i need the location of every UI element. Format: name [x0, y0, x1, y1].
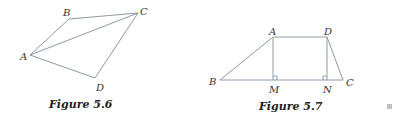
label-a: A [19, 51, 27, 62]
figure-5-6: A B C D Figure 5.6 [19, 6, 148, 111]
label-d: D [95, 82, 104, 93]
label-d: D [323, 26, 332, 37]
label-c: C [140, 6, 148, 17]
label-a: A [268, 26, 276, 37]
figure-caption: Figure 5.6 [48, 98, 113, 111]
geometry-figures: A B C D Figure 5.6 A D B M N C Figure 5.… [0, 0, 410, 122]
segment-ab [30, 19, 69, 55]
right-angle-m-icon [273, 76, 277, 80]
segment-ad [30, 55, 95, 78]
end-marker-icon [387, 104, 392, 109]
right-angle-n-icon [323, 76, 327, 80]
segment-cd [95, 13, 138, 78]
segment-dc [327, 37, 343, 80]
figure-5-7: A D B M N C Figure 5.7 [208, 26, 354, 113]
label-c: C [346, 77, 354, 88]
segment-bc [69, 13, 138, 19]
label-m: M [268, 84, 280, 95]
segment-ac [30, 13, 138, 55]
segment-ab [220, 37, 273, 80]
label-b: B [208, 76, 216, 87]
label-b: B [62, 7, 70, 18]
figure-caption: Figure 5.7 [258, 100, 323, 113]
label-n: N [322, 84, 333, 95]
